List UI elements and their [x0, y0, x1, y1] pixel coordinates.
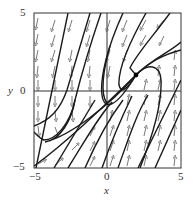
x-axis-label: x — [104, 184, 109, 196]
y-tick-top: 5 — [20, 6, 26, 18]
y-axis-label: y — [8, 84, 13, 96]
x-tick-right: 5 — [178, 170, 184, 182]
x-tick-left: −5 — [29, 170, 41, 182]
direction-field — [36, 18, 175, 166]
x-tick-mid: 0 — [104, 170, 110, 182]
y-tick-bottom: −5 — [13, 160, 25, 172]
equilibrium-point — [134, 73, 139, 78]
y-tick-mid: 0 — [20, 84, 26, 96]
